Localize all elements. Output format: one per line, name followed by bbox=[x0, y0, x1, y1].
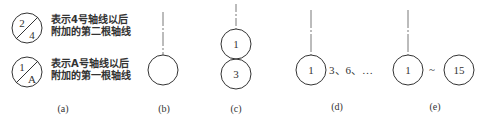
panel-label-d: (d) bbox=[331, 101, 343, 113]
axis-circle-empty bbox=[148, 55, 178, 85]
panel-label-a: (a) bbox=[57, 103, 68, 115]
applies-to-axes-note: 3、6、… bbox=[329, 64, 373, 76]
description-axis-1-A: 表示A号轴线以后 附加的第一根轴线 bbox=[51, 58, 131, 82]
panel-label-e: (e) bbox=[429, 101, 440, 113]
description-line: 表示A号轴线以后 bbox=[51, 58, 131, 70]
description-line: 表示4号轴线以后 bbox=[51, 14, 131, 26]
axis-top-number: 1 bbox=[19, 61, 25, 73]
description-axis-2-4: 表示4号轴线以后 附加的第二根轴线 bbox=[51, 14, 131, 38]
axis-number: 1 bbox=[405, 64, 411, 76]
axis-number: 15 bbox=[454, 64, 466, 76]
panel-d: 1 3、6、… (d) bbox=[296, 10, 373, 113]
panel-c: 1 3 (c) bbox=[221, 4, 251, 115]
axis-number: 3 bbox=[233, 68, 239, 80]
panel-label-c: (c) bbox=[230, 103, 241, 115]
description-line: 附加的第一根轴线 bbox=[51, 70, 131, 82]
axis-number: 1 bbox=[308, 64, 314, 76]
axis-number: 1 bbox=[233, 38, 239, 50]
description-line: 附加的第二根轴线 bbox=[51, 26, 131, 38]
axis-bottom-letter: A bbox=[28, 73, 36, 85]
axis-bottom-number: 4 bbox=[29, 29, 35, 41]
range-tilde: ~ bbox=[429, 63, 435, 75]
panel-label-b: (b) bbox=[158, 103, 170, 115]
panel-b: (b) bbox=[148, 12, 178, 115]
panel-e: 1 ~ 15 (e) bbox=[393, 10, 474, 113]
axis-top-number: 2 bbox=[19, 17, 25, 29]
